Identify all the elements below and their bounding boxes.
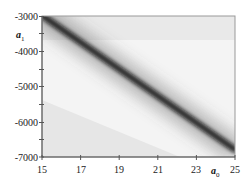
heatmap-area: [40, 14, 237, 157]
x-tick-label: 19: [109, 165, 129, 175]
x-tick-label: 15: [32, 165, 52, 175]
y-tick-label: -7000: [0, 153, 38, 163]
y-tick-label: -3000: [0, 12, 38, 22]
x-tick-label: 21: [148, 165, 168, 175]
y-tick-label: -4000: [0, 47, 38, 57]
x-tick-label: 17: [71, 165, 91, 175]
y-axis-title: a1: [16, 29, 25, 43]
y-tick-label: -5000: [0, 82, 38, 92]
x-tick-label: 25: [225, 165, 245, 175]
y-tick-label: -6000: [0, 118, 38, 128]
x-tick-label: 23: [186, 165, 206, 175]
x-axis-title: a0: [211, 165, 220, 179]
